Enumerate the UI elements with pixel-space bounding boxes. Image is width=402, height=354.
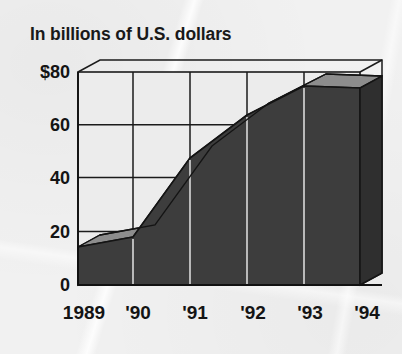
chart-figure: In billions of U.S. dollars $80 60 40 20… [0,0,402,354]
series-right-side-face [360,76,382,285]
plot-area [0,0,402,354]
